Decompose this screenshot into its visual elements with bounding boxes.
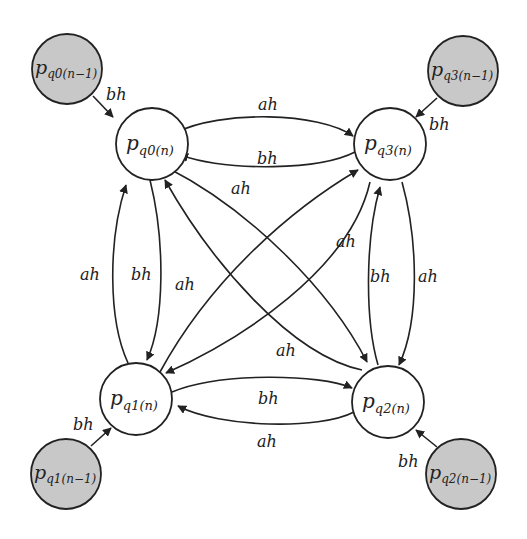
node-q1prev: pq1(n−1) — [31, 439, 101, 509]
node-q3n: pq3(n) — [354, 108, 426, 180]
label-q2n-q0n: ah — [276, 341, 296, 360]
label-q1prev-q1n: bh — [73, 415, 94, 434]
label-q0n-q1n: bh — [131, 265, 152, 284]
label-q3prev-q3n: bh — [429, 115, 450, 134]
label-q1n-q3n: ah — [175, 275, 195, 294]
node-q2n: pq2(n) — [352, 366, 424, 438]
node-q0n: pq0(n) — [116, 108, 188, 180]
label-q0prev-q0n: bh — [106, 85, 127, 104]
node-q0prev: pq0(n−1) — [32, 34, 102, 104]
node-q3prev: pq3(n−1) — [428, 36, 498, 106]
edge-q1n-to-q0n — [113, 185, 128, 363]
node-q2prev: pq2(n−1) — [426, 439, 496, 509]
edge-q3n-to-q2n — [399, 182, 414, 365]
label-q1n-q0n: ah — [80, 265, 100, 284]
label-q1n-q2n: bh — [258, 389, 279, 408]
label-q0n-q3n: ah — [258, 95, 278, 114]
label-q3n-q2n: ah — [418, 267, 438, 286]
node-q1n: pq1(n) — [100, 363, 172, 435]
label-q2prev-q2n: bh — [398, 452, 419, 471]
edge-q0n-to-q3n — [175, 117, 353, 136]
edge-q3n-to-q1n — [166, 182, 370, 373]
edge-q0n-to-q2n — [168, 168, 367, 362]
state-diagram: bh bh bh bh ah bh bh ah ah bh bh ah ah a… — [0, 0, 527, 539]
label-q2n-q1n: ah — [257, 432, 277, 451]
edge-q2prev-to-q2n — [416, 430, 437, 447]
edge-q2n-to-q1n — [178, 406, 354, 424]
label-q0n-q2n: ah — [231, 179, 251, 198]
label-q2n-q3n: bh — [370, 267, 391, 286]
edge-q1prev-to-q1n — [91, 428, 111, 446]
label-q3n-q1n: ah — [336, 232, 356, 251]
label-q3n-q0n: bh — [257, 149, 278, 168]
edge-q1n-to-q3n — [160, 170, 358, 372]
